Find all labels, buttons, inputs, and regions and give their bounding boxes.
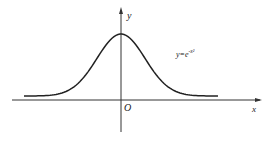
x-axis-arrow-icon xyxy=(255,98,262,102)
x-axis-label: x xyxy=(251,104,256,114)
gaussian-plot: y O x y=e-x² xyxy=(0,0,269,147)
y-axis-arrow-icon xyxy=(119,7,123,14)
equation-label: y=e-x² xyxy=(175,48,195,59)
origin-label: O xyxy=(124,102,131,113)
y-axis-label: y xyxy=(126,10,132,21)
